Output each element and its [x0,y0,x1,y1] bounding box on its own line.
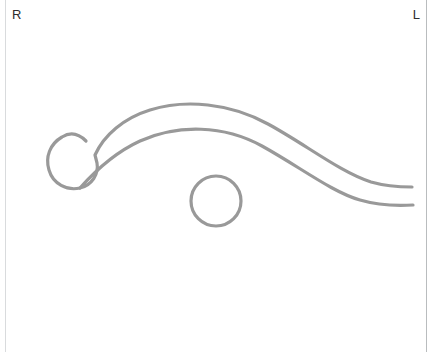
contour-drawing [0,0,434,352]
circle-marker [191,176,241,226]
bulb-and-upper-contour [48,104,412,189]
lower-contour [80,129,413,205]
diagram-root: R L [0,0,434,352]
